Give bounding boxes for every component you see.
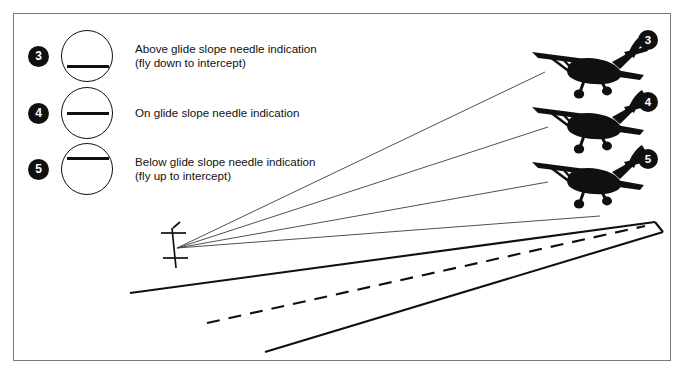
legend-badge-3: 3 [28, 46, 49, 67]
needle-indicator-on [67, 112, 109, 115]
legend-label-3: Above glide slope needle indication (fly… [135, 42, 317, 69]
runway-right-edge [265, 232, 663, 352]
aircraft-badge-4: 4 [638, 92, 658, 112]
legend-item-4: 4 On glide slope needle indication [28, 87, 299, 139]
legend-badge-5: 5 [28, 159, 49, 180]
glide-slope-gauge-below [61, 143, 113, 195]
aircraft-badge-5: 5 [638, 149, 658, 169]
glide-slope-gauge-on [61, 87, 113, 139]
antenna-mast [172, 228, 176, 268]
aircraft-5 [532, 145, 648, 209]
needle-indicator-below [67, 157, 109, 160]
legend-label-4: On glide slope needle indication [135, 106, 299, 120]
runway-far-threshold [655, 222, 663, 232]
legend-badge-4: 4 [28, 103, 49, 124]
glide-slope-gauge-above [61, 30, 113, 82]
beam-ray-4 [177, 216, 600, 248]
needle-indicator-above [67, 65, 109, 68]
aircraft-3 [532, 35, 648, 99]
glide-slope-figure: 3 4 5 3 Above glide slope needle indicat… [0, 0, 689, 377]
runway [130, 222, 663, 352]
antenna-tip [173, 222, 180, 228]
legend-item-5: 5 Below glide slope needle indication (f… [28, 143, 315, 195]
aircraft-4 [532, 90, 648, 154]
legend-label-5: Below glide slope needle indication (fly… [135, 155, 315, 182]
legend-item-3: 3 Above glide slope needle indication (f… [28, 30, 317, 82]
aircraft-badge-3: 3 [638, 30, 658, 50]
